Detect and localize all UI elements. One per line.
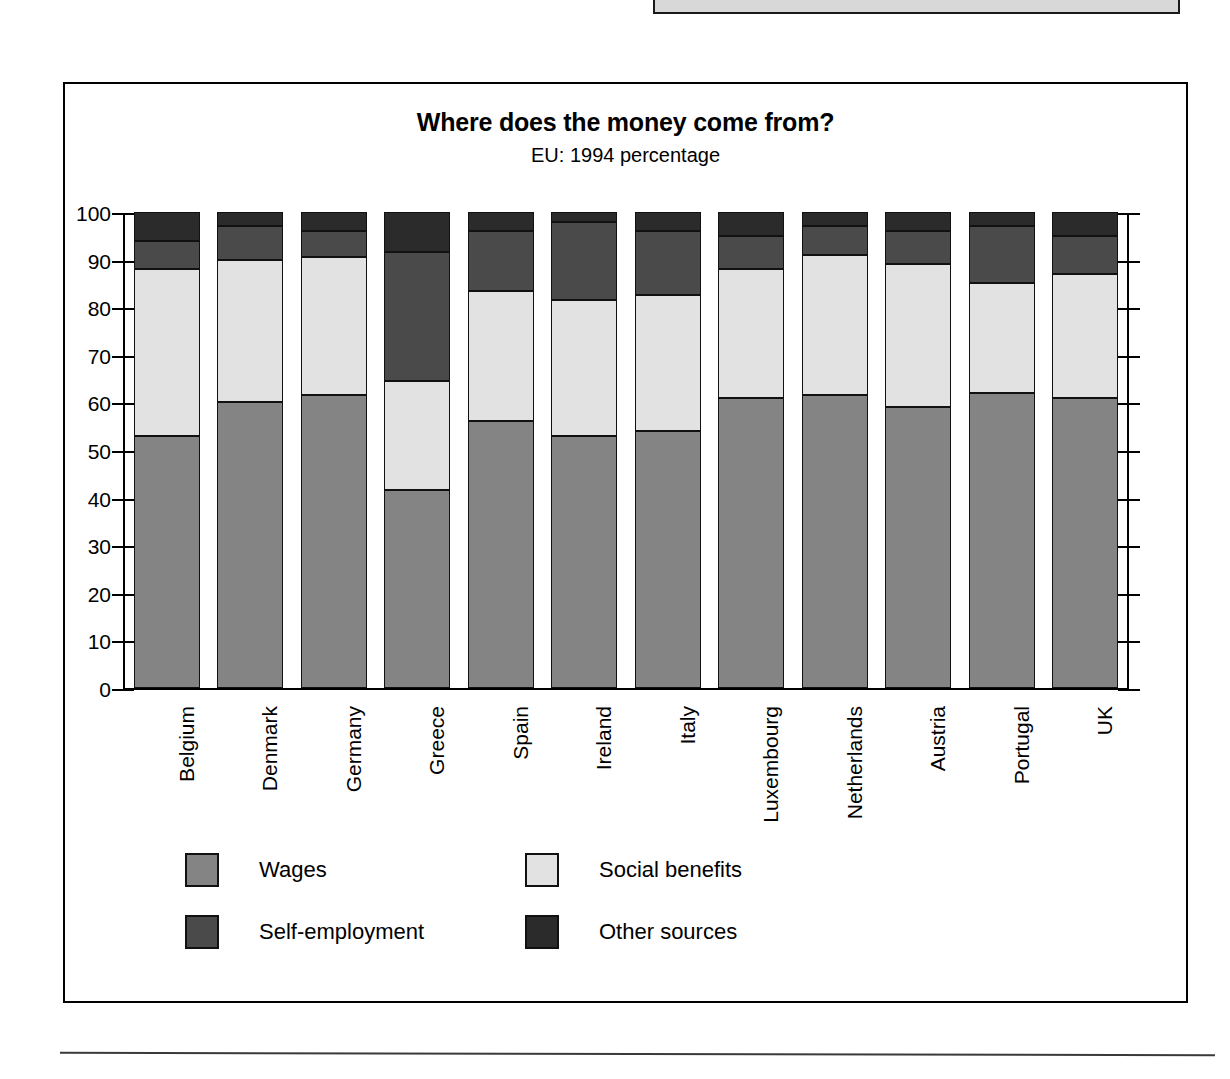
bar-segment[interactable] — [635, 212, 701, 231]
x-category-label: Spain — [509, 706, 533, 760]
bar-segment[interactable] — [1052, 274, 1118, 398]
bar-segment[interactable] — [551, 222, 617, 301]
bar-segment[interactable] — [217, 226, 283, 259]
bar-segment[interactable] — [384, 490, 450, 688]
stacked-bar[interactable] — [885, 214, 951, 688]
x-category-label: Belgium — [175, 706, 199, 782]
bar-segment[interactable] — [718, 398, 784, 688]
bar-segment[interactable] — [217, 260, 283, 403]
y-tick-label: 70 — [65, 346, 111, 367]
legend-item[interactable]: Other sources — [525, 915, 737, 949]
stacked-bar[interactable] — [802, 214, 868, 688]
bar-segment[interactable] — [885, 264, 951, 407]
legend-label: Self-employment — [259, 919, 424, 945]
y-tick-mark-right — [1129, 308, 1140, 310]
legend-item[interactable]: Wages — [185, 853, 327, 887]
bar-segment[interactable] — [301, 395, 367, 688]
bar-segment[interactable] — [301, 257, 367, 395]
bar-segment[interactable] — [217, 402, 283, 688]
legend-swatch-other — [525, 915, 559, 949]
bar-segment[interactable] — [969, 393, 1035, 688]
legend-swatch-self — [185, 915, 219, 949]
legend-swatch-social — [525, 853, 559, 887]
bar-segment[interactable] — [802, 226, 868, 255]
bar-segment[interactable] — [301, 212, 367, 231]
bar-segment[interactable] — [885, 407, 951, 688]
bar-segment[interactable] — [551, 436, 617, 688]
stacked-bar[interactable] — [134, 214, 200, 688]
bar-segment[interactable] — [885, 231, 951, 264]
bar-segment[interactable] — [635, 231, 701, 295]
bar-segment[interactable] — [301, 231, 367, 257]
stacked-bar[interactable] — [384, 214, 450, 688]
bar-segment[interactable] — [635, 431, 701, 688]
stacked-bar[interactable] — [1052, 214, 1118, 688]
bar-segment[interactable] — [134, 436, 200, 688]
bar-segment[interactable] — [468, 212, 534, 231]
x-category-label: Germany — [342, 706, 366, 792]
y-tick-inner-right — [1118, 689, 1129, 691]
stacked-bar[interactable] — [718, 214, 784, 688]
x-category-label: Netherlands — [843, 706, 867, 819]
legend-swatch-wages — [185, 853, 219, 887]
legend-label: Social benefits — [599, 857, 742, 883]
bar-segment[interactable] — [718, 269, 784, 398]
bar-segment[interactable] — [1052, 212, 1118, 236]
stacked-bar[interactable] — [969, 214, 1035, 688]
legend-label: Wages — [259, 857, 327, 883]
stacked-bar[interactable] — [551, 214, 617, 688]
stacked-bar[interactable] — [301, 214, 367, 688]
legend-label: Other sources — [599, 919, 737, 945]
bar-segment[interactable] — [802, 255, 868, 395]
bar-segment[interactable] — [468, 291, 534, 422]
x-category-label: Ireland — [592, 706, 616, 770]
y-tick-mark-right — [1129, 594, 1140, 596]
bar-segment[interactable] — [969, 283, 1035, 392]
y-tick-inner — [123, 689, 134, 691]
bar-segment[interactable] — [802, 395, 868, 688]
bar-segment[interactable] — [384, 212, 450, 252]
bar-segment[interactable] — [718, 212, 784, 236]
y-tick-label: 60 — [65, 393, 111, 414]
plot-area: 0102030405060708090100 BelgiumDenmarkGer… — [123, 214, 1129, 690]
y-tick-mark — [112, 261, 123, 263]
bar-segment[interactable] — [217, 212, 283, 226]
y-tick-mark-right — [1129, 213, 1140, 215]
legend-item[interactable]: Self-employment — [185, 915, 424, 949]
bar-segment[interactable] — [468, 231, 534, 291]
bar-segment[interactable] — [718, 236, 784, 269]
bar-segment[interactable] — [384, 252, 450, 381]
chart-subtitle: EU: 1994 percentage — [65, 144, 1186, 167]
chart-legend: WagesSocial benefitsSelf-employmentOther… — [185, 853, 885, 983]
y-tick-mark-right — [1129, 641, 1140, 643]
bar-segment[interactable] — [134, 212, 200, 241]
bar-segment[interactable] — [885, 212, 951, 231]
y-tick-mark — [112, 403, 123, 405]
stacked-bar[interactable] — [217, 214, 283, 688]
y-tick-mark — [112, 546, 123, 548]
bar-segment[interactable] — [635, 295, 701, 431]
bar-segment[interactable] — [551, 300, 617, 436]
bar-segment[interactable] — [1052, 398, 1118, 688]
y-tick-label: 90 — [65, 251, 111, 272]
bar-segment[interactable] — [1052, 236, 1118, 274]
stacked-bar[interactable] — [635, 214, 701, 688]
bar-segment[interactable] — [551, 212, 617, 222]
y-tick-label: 10 — [65, 631, 111, 652]
bar-segment[interactable] — [468, 421, 534, 688]
bar-segment[interactable] — [969, 212, 1035, 226]
bar-segment[interactable] — [134, 241, 200, 270]
x-axis-line — [123, 688, 1129, 690]
y-tick-label: 100 — [65, 203, 111, 224]
y-tick-mark — [112, 451, 123, 453]
bar-segment[interactable] — [384, 381, 450, 490]
bar-segment[interactable] — [134, 269, 200, 436]
x-category-label: Denmark — [258, 706, 282, 791]
bar-segment[interactable] — [969, 226, 1035, 283]
y-tick-label: 50 — [65, 441, 111, 462]
x-category-label: Italy — [676, 706, 700, 745]
legend-item[interactable]: Social benefits — [525, 853, 742, 887]
bars-layer — [125, 214, 1127, 688]
bar-segment[interactable] — [802, 212, 868, 226]
stacked-bar[interactable] — [468, 214, 534, 688]
